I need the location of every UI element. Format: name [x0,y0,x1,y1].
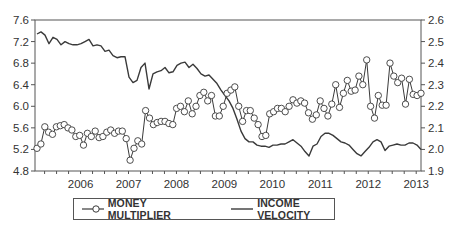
data-point-marker [402,101,408,107]
data-point-marker [208,92,214,98]
line-marker-icon [231,204,253,214]
data-point-marker [251,115,257,121]
data-point-marker [139,141,145,147]
legend-item-money-multiplier: MONEY MULTIPLIER [82,197,189,221]
data-point-marker [406,76,412,82]
data-point-marker [239,118,245,124]
data-point-marker [398,75,404,81]
left-tick-label: 7.6 [13,14,29,26]
data-point-marker [301,100,307,106]
left-tick-label: 7.2 [13,36,29,48]
right-tick-label: 2.2 [428,100,444,112]
x-tick-label: 2011 [308,178,333,190]
data-point-marker [201,89,207,95]
left-y-axis: 4.85.25.66.06.46.87.27.6 [13,14,35,177]
right-tick-label: 2.6 [428,14,444,26]
left-tick-label: 6.8 [13,57,29,69]
data-point-marker [352,87,358,93]
data-point-marker [286,103,292,109]
data-point-marker [236,103,242,109]
data-point-marker [371,115,377,121]
left-tick-label: 4.8 [13,165,29,177]
data-point-marker [387,60,393,66]
x-tick-label: 2013 [403,178,429,190]
data-point-marker [232,84,238,90]
data-point-marker [38,141,44,147]
data-point-marker [69,127,75,133]
data-point-marker [146,115,152,121]
data-point-marker [193,103,199,109]
data-point-marker [189,111,195,117]
x-tick-label: 2007 [116,178,142,190]
left-tick-label: 5.2 [13,143,29,155]
data-point-marker [367,103,373,109]
data-point-marker [317,98,323,104]
data-point-marker [321,105,327,111]
left-tick-label: 6.4 [13,79,30,91]
x-tick-label: 2009 [212,178,238,190]
data-point-marker [49,131,55,137]
data-point-marker [220,103,226,109]
x-tick-label: 2006 [68,178,94,190]
data-point-marker [313,112,319,118]
legend-label: MONEY MULTIPLIER [108,197,190,221]
data-point-marker [336,104,342,110]
legend-label: INCOME VELOCITY [257,197,334,221]
data-point-marker [340,90,346,96]
data-point-marker [170,121,176,127]
data-point-marker [185,98,191,104]
right-tick-label: 2.4 [428,57,445,69]
data-point-marker [391,73,397,79]
data-point-marker [80,142,86,148]
data-point-marker [119,128,125,134]
left-tick-label: 6.0 [13,100,29,112]
data-point-marker [131,145,137,151]
x-axis: 20062007200820092010201120122013 [45,171,429,190]
data-point-marker [181,109,187,115]
data-point-marker [329,101,335,107]
right-tick-label: 2.5 [428,36,444,48]
data-point-marker [263,132,269,138]
right-tick-label: 2.0 [428,143,444,155]
data-point-marker [418,90,424,96]
data-point-marker [127,157,133,163]
right-y-axis: 1.92.02.12.22.32.42.52.6 [421,14,445,177]
data-point-marker [325,113,331,119]
data-point-marker [142,107,148,113]
right-tick-label: 1.9 [428,165,444,177]
line-with-circle-marker-icon [82,204,104,214]
x-tick-label: 2008 [164,178,190,190]
money-multiplier-series [34,57,424,164]
dual-axis-line-chart: 4.85.25.66.06.46.87.27.6 1.92.02.12.22.3… [0,0,454,200]
data-point-marker [375,92,381,98]
data-point-marker [77,132,83,138]
data-point-marker [356,73,362,79]
data-point-marker [255,121,261,127]
data-point-marker [364,57,370,63]
data-point-marker [92,128,98,134]
data-point-marker [344,77,350,83]
data-point-marker [360,82,366,88]
data-point-marker [216,113,222,119]
x-tick-label: 2010 [260,178,286,190]
legend-item-income-velocity: INCOME VELOCITY [231,197,334,221]
right-tick-label: 2.1 [428,122,444,134]
left-tick-label: 5.6 [13,122,29,134]
data-point-marker [247,107,253,113]
chart-legend: MONEY MULTIPLIER INCOME VELOCITY [73,198,335,220]
x-tick-label: 2012 [355,178,381,190]
data-point-marker [305,110,311,116]
data-point-marker [383,102,389,108]
data-point-marker [123,135,129,141]
data-point-marker [333,82,339,88]
right-tick-label: 2.3 [428,79,444,91]
